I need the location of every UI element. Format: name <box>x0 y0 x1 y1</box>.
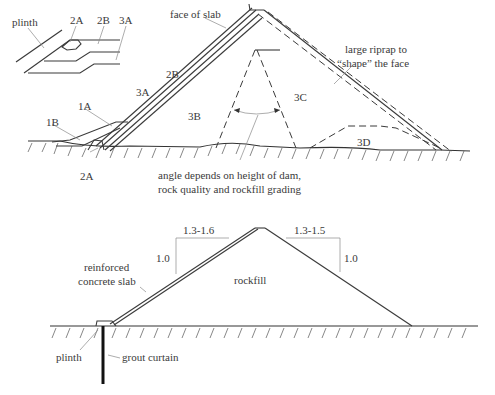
concrete-face-rockfill-dam-diagram: plinth 2A 2B 3A <box>0 0 495 395</box>
upstream-slope-v-label: 1.0 <box>156 252 170 264</box>
face-of-slab-label: face of slab <box>170 8 221 20</box>
slab-label-line1: reinforced <box>84 261 130 273</box>
angle-note-line1: angle depends on height of dam, <box>158 169 301 181</box>
zone-3c-label: 3C <box>294 91 307 103</box>
riprap-label-line1: large riprap to <box>345 43 408 55</box>
grout-curtain-label: grout curtain <box>122 351 179 363</box>
plinth-detail-inset: plinth 2A 2B 3A <box>12 14 133 73</box>
zone-2a-label: 2A <box>80 170 94 182</box>
riprap-label-line2: “shape” the face <box>337 57 409 69</box>
angle-note-line2: rock quality and rockfill grading <box>158 183 301 195</box>
downstream-slope-v-label: 1.0 <box>344 252 358 264</box>
inset-zone-2b-label: 2B <box>97 14 110 26</box>
plinth-label: plinth <box>56 351 82 363</box>
rockfill-label: rockfill <box>234 274 266 286</box>
zone-1b-label: 1B <box>46 116 59 128</box>
zone-3a-label: 3A <box>136 86 150 98</box>
zone-3b-label: 3B <box>188 110 201 122</box>
foundation-hatching-lower <box>52 328 466 338</box>
zone-3d-label: 3D <box>357 136 371 148</box>
inset-zone-3a-label: 3A <box>119 14 133 26</box>
inset-plinth-label: plinth <box>12 16 38 28</box>
downstream-slope-h-label: 1.3-1.5 <box>294 224 326 236</box>
lower-typical-section: 1.3-1.6 1.0 1.3-1.5 1.0 reinforced concr… <box>50 224 478 384</box>
upstream-slope-h-label: 1.3-1.6 <box>183 224 215 236</box>
slab-label-line2: concrete slab <box>78 275 136 287</box>
inset-zone-2a-label: 2A <box>70 14 84 26</box>
zone-2b-label: 2B <box>166 68 179 80</box>
upper-zoned-section: face of slab large riprap to “shape” the… <box>28 4 470 195</box>
zone-1a-label: 1A <box>78 100 92 112</box>
